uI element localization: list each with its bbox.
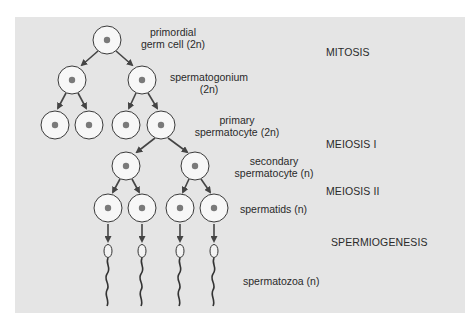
label-spermatogonium: spermatogonium (2n) [166, 71, 252, 95]
spermatogonium-cell [128, 66, 156, 94]
spermatid-cell [200, 194, 228, 222]
spermatid-cell [166, 194, 194, 222]
secondary-spermatocyte-cell [112, 152, 140, 180]
spermatogonium-daughter-cell [75, 111, 103, 139]
label-line: primary [189, 114, 285, 126]
label-primary-spermatocyte: primary spermatocyte (2n) [189, 114, 285, 138]
primary-spermatocyte-cell [147, 111, 175, 139]
label-spermatozoa: spermatozoa (n) [243, 275, 319, 287]
spermatid-cell [94, 194, 122, 222]
label-line: (2n) [166, 83, 252, 95]
label-line: germ cell (2n) [134, 38, 212, 50]
spermatogonium-daughter-cell [41, 111, 69, 139]
spermatozoon [210, 245, 218, 307]
label-line: spermatocyte (n) [230, 167, 318, 179]
label-line: spermatozoa (n) [243, 275, 319, 287]
spermatogonium-cell [58, 66, 86, 94]
stage-mitosis: MITOSIS [326, 46, 370, 58]
primordial-germ-cell [93, 26, 121, 54]
secondary-spermatocyte-cell [181, 152, 209, 180]
spermatozoon [176, 245, 184, 307]
label-spermatids: spermatids (n) [240, 203, 307, 215]
spermatozoa [104, 245, 218, 307]
label-secondary-spermatocyte: secondary spermatocyte (n) [230, 155, 318, 179]
label-line: spermatogonium [166, 71, 252, 83]
label-line: primordial [134, 26, 212, 38]
stage-spermiogenesis: SPERMIOGENESIS [331, 236, 428, 248]
stage-meiosis-2: MEIOSIS II [326, 185, 380, 197]
spermatid-cell [128, 194, 156, 222]
stage-meiosis-1: MEIOSIS I [326, 138, 377, 150]
spermatozoon [138, 245, 146, 307]
label-primordial-germ-cell: primordial germ cell (2n) [134, 26, 212, 50]
spermatozoon [104, 245, 112, 307]
label-line: spermatocyte (2n) [189, 126, 285, 138]
spermatogonium-daughter-cell [112, 111, 140, 139]
label-line: spermatids (n) [240, 203, 307, 215]
label-line: secondary [230, 155, 318, 167]
